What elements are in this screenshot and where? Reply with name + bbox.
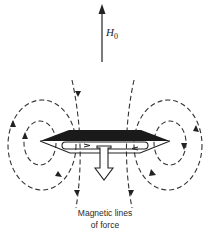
caption-line-1: Magnetic lines (78, 208, 132, 218)
field-line-left-outer (8, 100, 76, 190)
magnetization-arrow (95, 146, 113, 180)
field-line-left-inner (24, 121, 56, 165)
disk-top-surface (40, 130, 170, 141)
field-line-center-left (72, 80, 80, 208)
magnetic-field-diagram: H0 Magnetic lines of force (0, 0, 211, 233)
field-line-right-outer (134, 100, 202, 190)
field-label: H0 (105, 26, 118, 41)
field-line-center-right (126, 80, 134, 208)
applied-field-arrow (99, 4, 106, 62)
caption-line-2: of force (91, 220, 120, 230)
